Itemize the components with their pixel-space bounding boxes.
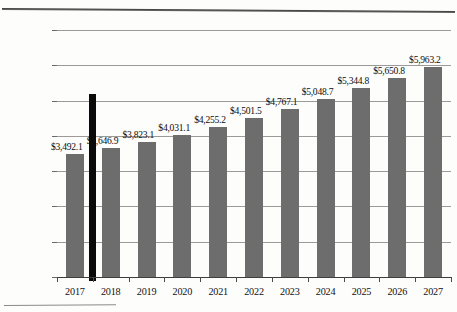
- x-axis-tick: [236, 277, 237, 282]
- x-axis-label-2020: 2020: [165, 286, 199, 297]
- bar-2018: [102, 148, 120, 277]
- x-axis-label-2027: 2027: [416, 286, 450, 297]
- bar-2022: [245, 118, 263, 277]
- y-axis-tick: [52, 30, 57, 31]
- x-axis-label-2022: 2022: [237, 286, 271, 297]
- gridline: [57, 30, 451, 31]
- x-axis-label-2026: 2026: [380, 286, 414, 297]
- y-axis-tick: [52, 171, 57, 172]
- scan-border-top: [2, 8, 455, 13]
- bar-2027: [424, 67, 442, 277]
- bar-2017: [66, 154, 84, 277]
- bar-value-label: $3,823.1: [123, 129, 155, 140]
- x-axis-label-2019: 2019: [130, 286, 164, 297]
- y-axis-tick: [52, 242, 57, 243]
- bar-value-label: $5,344.8: [337, 75, 369, 86]
- x-axis-label-2021: 2021: [201, 286, 235, 297]
- bar-value-label: $5,650.8: [373, 65, 405, 76]
- x-axis-tick: [57, 277, 58, 282]
- x-axis-label-2023: 2023: [273, 286, 307, 297]
- x-axis-label-2025: 2025: [344, 286, 378, 297]
- y-axis-tick: [52, 206, 57, 207]
- x-axis-tick: [308, 277, 309, 282]
- bar-2024: [317, 99, 335, 277]
- x-axis-tick: [415, 277, 416, 282]
- y-axis-tick: [52, 101, 57, 102]
- y-axis-tick: [52, 65, 57, 66]
- x-axis-line: [57, 277, 451, 278]
- x-axis-label-2017: 2017: [58, 286, 92, 297]
- bar-chart: $0.0$1,000.0$2,000.0$3,000.0$4,000.0$5,0…: [0, 0, 457, 312]
- y-axis-tick: [52, 136, 57, 137]
- bar-2021: [209, 127, 227, 277]
- vertical-divider-line: [89, 94, 96, 281]
- x-axis-tick: [451, 277, 452, 282]
- x-axis-label-2024: 2024: [309, 286, 343, 297]
- bar-2026: [388, 78, 406, 277]
- bar-2023: [281, 109, 299, 277]
- x-axis-tick: [272, 277, 273, 282]
- bar-value-label: $4,031.1: [158, 122, 190, 133]
- bar-value-label: $5,963.2: [409, 54, 441, 65]
- bar-value-label: $3,646.9: [87, 135, 119, 146]
- bar-2019: [138, 142, 156, 277]
- bar-value-label: $3,492.1: [51, 141, 83, 152]
- bar-2025: [352, 88, 370, 277]
- x-axis-tick: [379, 277, 380, 282]
- x-axis-tick: [129, 277, 130, 282]
- x-axis-tick: [93, 277, 94, 282]
- scan-border-bottom: [4, 304, 116, 306]
- bar-value-label: $5,048.7: [302, 86, 334, 97]
- x-axis-tick: [344, 277, 345, 282]
- bar-value-label: $4,501.5: [230, 105, 262, 116]
- bar-value-label: $4,767.1: [266, 96, 298, 107]
- bar-2020: [173, 135, 191, 277]
- bar-value-label: $4,255.2: [194, 114, 226, 125]
- x-axis-label-2018: 2018: [94, 286, 128, 297]
- x-axis-tick: [164, 277, 165, 282]
- x-axis-tick: [200, 277, 201, 282]
